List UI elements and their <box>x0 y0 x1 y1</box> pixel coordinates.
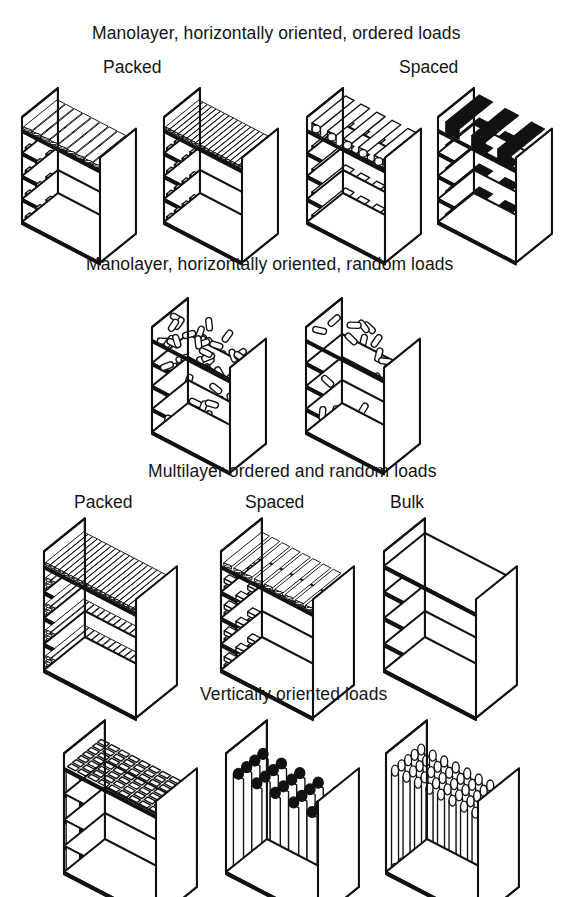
unit-packed-dense-tubes <box>150 90 300 238</box>
iso-rack-svg <box>292 300 442 448</box>
section-heading-multilayer: Multilayer ordered and random loads <box>148 461 437 482</box>
unit-multilayer-spaced <box>205 522 385 690</box>
iso-rack-svg <box>28 522 208 690</box>
iso-rack-svg <box>48 722 228 894</box>
unit-spaced-open-tubes <box>293 90 443 238</box>
unit-vertical-round-tubes-spaced <box>210 722 390 894</box>
iso-rack-svg <box>210 722 390 894</box>
load-configuration-figure: Manolayer, horizontally oriented, ordere… <box>0 0 577 897</box>
iso-rack-svg <box>138 300 288 448</box>
sub-label-packed-row1: Packed <box>103 57 161 78</box>
section-heading-monolayer-ordered: Manolayer, horizontally oriented, ordere… <box>92 23 461 44</box>
unit-vertical-round-tubes-packed <box>370 722 550 894</box>
iso-rack-svg <box>368 522 548 690</box>
unit-packed-flat-tubes <box>8 90 158 238</box>
iso-rack-svg <box>370 722 550 894</box>
sub-label-bulk-row3: Bulk <box>390 492 424 513</box>
unit-random-dense-capsules <box>138 300 288 448</box>
iso-rack-svg <box>293 90 443 238</box>
sub-label-spaced-row1: Spaced <box>399 57 458 78</box>
section-heading-vertical: Vertically oriented loads <box>200 684 387 705</box>
iso-rack-svg <box>8 90 158 238</box>
unit-spaced-solid-tubes <box>424 90 574 238</box>
sub-label-spaced-row3: Spaced <box>245 492 304 513</box>
unit-vertical-grid-cells <box>48 722 228 894</box>
iso-rack-svg <box>205 522 385 690</box>
iso-rack-svg <box>424 90 574 238</box>
unit-multilayer-packed <box>28 522 208 690</box>
section-heading-monolayer-random: Manolayer, horizontally oriented, random… <box>86 254 453 275</box>
sub-label-packed-row3: Packed <box>74 492 132 513</box>
iso-rack-svg <box>150 90 300 238</box>
unit-multilayer-bulk <box>368 522 548 690</box>
unit-random-sparse-capsules <box>292 300 442 448</box>
